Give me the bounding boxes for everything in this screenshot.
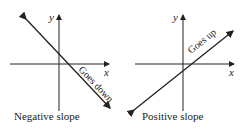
- line-label: Goes up: [185, 26, 218, 55]
- negative-slope-graph: y x Goes down: [10, 11, 116, 111]
- x-axis-label: x: [228, 66, 234, 78]
- line-label: Goes down: [77, 64, 116, 104]
- y-axis-label: y: [48, 11, 54, 23]
- positive-slope-caption: Positive slope: [142, 110, 203, 122]
- positive-slope-graph: y x Goes up: [134, 11, 234, 111]
- x-axis-label: x: [103, 66, 109, 78]
- slope-diagram: y x Goes down y x Goes up: [0, 0, 246, 128]
- y-axis-label: y: [172, 11, 178, 23]
- negative-slope-caption: Negative slope: [14, 110, 80, 122]
